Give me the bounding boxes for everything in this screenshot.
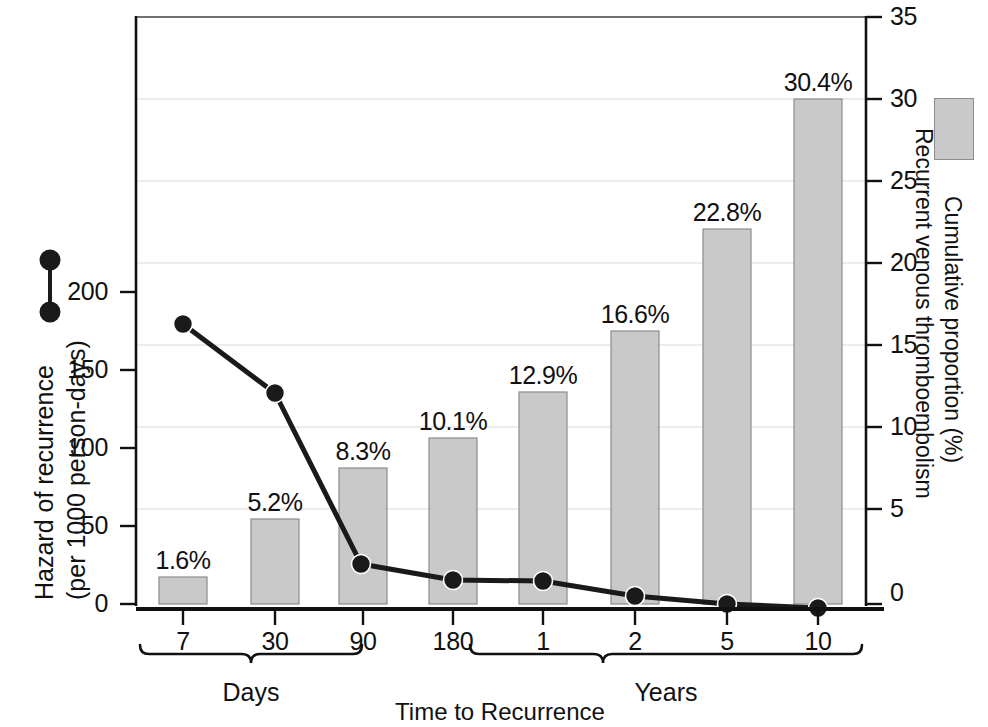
x-axis-title: Time to Recurrence xyxy=(350,698,650,726)
line-point-1 xyxy=(266,384,285,403)
line-point-3 xyxy=(444,571,463,590)
x-tick-label-7: 7 xyxy=(153,627,213,656)
bar-label-1: 5.2% xyxy=(225,488,325,517)
bar-label-6: 22.8% xyxy=(668,198,786,227)
right-axis-title-line1: Cumulative proportion (%) xyxy=(939,196,966,463)
x-tick-label-1: 1 xyxy=(513,627,573,656)
left-tick-label-200: 200 xyxy=(52,277,108,306)
group-label-days: Days xyxy=(201,678,301,707)
bar-1 xyxy=(251,519,299,604)
right-axis-title-line2: Recurrent venous thromboembolism xyxy=(910,128,937,499)
line-point-2 xyxy=(352,555,371,574)
bar-7 xyxy=(794,99,842,604)
left-axis-title-line1: Hazard of recurrence xyxy=(30,365,59,600)
bar-series xyxy=(159,99,842,604)
line-point-5 xyxy=(626,587,645,606)
bar-label-2: 8.3% xyxy=(313,437,413,466)
x-tick-label-10: 10 xyxy=(788,627,848,656)
chart-figure: 200 150 100 50 0 35 30 25 20 15 10 5 0 7… xyxy=(0,0,988,727)
legend-swatch-bar xyxy=(934,98,974,160)
right-tick-label-5: 5 xyxy=(890,494,904,523)
right-tick-label-35: 35 xyxy=(890,2,917,31)
x-tick-label-90: 90 xyxy=(333,627,393,656)
bar-label-0: 1.6% xyxy=(133,546,233,575)
x-tick-label-180: 180 xyxy=(423,627,483,656)
right-tick-label-30: 30 xyxy=(890,84,917,113)
right-axis-ticks xyxy=(866,17,882,604)
bar-6 xyxy=(703,229,751,604)
x-tick-label-2: 2 xyxy=(605,627,665,656)
bar-label-3: 10.1% xyxy=(394,407,512,436)
x-tick-label-5: 5 xyxy=(697,627,757,656)
bar-5 xyxy=(611,331,659,604)
bar-label-5: 16.6% xyxy=(576,300,694,329)
line-point-0 xyxy=(174,315,193,334)
right-tick-label-0: 0 xyxy=(890,578,904,607)
bar-0 xyxy=(159,577,207,604)
left-axis-title-line2: (per 1000 person-days) xyxy=(62,340,91,600)
line-point-4 xyxy=(534,572,553,591)
x-tick-label-30: 30 xyxy=(245,627,305,656)
bar-label-4: 12.9% xyxy=(484,361,602,390)
bar-label-7: 30.4% xyxy=(759,68,877,97)
